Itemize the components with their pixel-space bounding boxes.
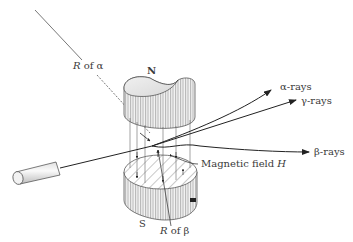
radius-alpha-label: R of α [73, 61, 103, 71]
north-pole-magnet [124, 77, 195, 129]
radius-beta-label: R of β [160, 226, 189, 236]
gamma-rays-label: γ-rays [301, 96, 332, 106]
radius-alpha-symbol: R [73, 60, 81, 71]
radioactive-source [12, 162, 60, 186]
magnetic-field-symbol: H [277, 158, 286, 169]
south-pole-label: S [139, 219, 146, 229]
magnetic-field-text: Magnetic field [201, 158, 274, 169]
radius-beta-suffix: of β [171, 225, 190, 236]
diagram-drawing [0, 0, 353, 242]
alpha-rays-label: α-rays [280, 82, 312, 92]
beta-rays-label: β-rays [314, 147, 345, 157]
radius-beta-symbol: R [160, 225, 168, 236]
radius-alpha-suffix: of α [84, 60, 104, 71]
diagram-canvas: N S R of α R of β Magnetic field H α-ray… [0, 0, 353, 242]
north-pole-label: N [147, 66, 156, 76]
magnetic-field-label: Magnetic field H [201, 159, 286, 169]
beta-ray-path [152, 145, 309, 152]
